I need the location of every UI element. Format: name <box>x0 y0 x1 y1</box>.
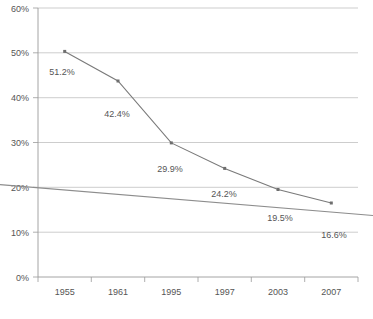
y-tick-label-30: 30% <box>11 138 29 148</box>
data-point-2003 <box>277 188 280 191</box>
x-axis-tickmarks <box>38 277 358 282</box>
data-point-2007 <box>330 202 333 205</box>
y-tick-label-60: 60% <box>11 4 29 14</box>
data-label-1995: 29.9% <box>157 164 183 174</box>
line-chart: 60% 50% 40% 30% 20% 10% 0% 1955 1961 199… <box>0 0 373 319</box>
y-tick-label-50: 50% <box>11 48 29 58</box>
x-axis-tick-labels: 1955 1961 1995 1997 2003 2007 <box>55 287 342 297</box>
chart-container: 60% 50% 40% 30% 20% 10% 0% 1955 1961 199… <box>0 0 373 319</box>
data-label-1997: 24.2% <box>211 189 237 199</box>
y-tick-label-10: 10% <box>11 228 29 238</box>
data-label-1955: 51.2% <box>49 67 75 77</box>
y-tick-label-0: 0% <box>16 273 29 283</box>
x-tick-label-1995: 1995 <box>161 287 181 297</box>
x-tick-label-2007: 2007 <box>321 287 341 297</box>
data-label-2007: 16.6% <box>321 230 347 240</box>
x-tick-label-2003: 2003 <box>268 287 288 297</box>
y-axis-tick-labels: 60% 50% 40% 30% 20% 10% 0% <box>11 4 29 283</box>
y-axis-tickmarks <box>33 8 38 277</box>
y-tick-label-40: 40% <box>11 93 29 103</box>
data-point-1961 <box>117 80 120 83</box>
x-tick-label-1961: 1961 <box>108 287 128 297</box>
data-label-1961: 42.4% <box>104 109 130 119</box>
data-point-1997 <box>223 167 226 170</box>
x-tick-label-1955: 1955 <box>55 287 75 297</box>
data-label-2003: 19.5% <box>267 213 293 223</box>
x-tick-label-1997: 1997 <box>215 287 235 297</box>
data-point-1995 <box>170 141 173 144</box>
y-tick-label-20: 20% <box>11 183 29 193</box>
data-point-1955 <box>63 50 66 53</box>
